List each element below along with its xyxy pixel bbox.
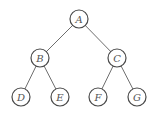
binary-tree-diagram: A B C D E F G bbox=[0, 0, 160, 116]
node-label: E bbox=[55, 92, 64, 103]
node-d: D bbox=[12, 88, 30, 106]
node-label: D bbox=[16, 92, 25, 103]
node-label: B bbox=[35, 53, 43, 64]
node-b: B bbox=[31, 49, 49, 67]
node-c: C bbox=[108, 49, 126, 67]
node-label: A bbox=[74, 14, 82, 25]
node-e: E bbox=[51, 88, 69, 106]
node-label: G bbox=[133, 92, 141, 103]
node-label: C bbox=[113, 53, 121, 64]
node-label: F bbox=[94, 92, 103, 103]
node-g: G bbox=[128, 88, 146, 106]
node-f: F bbox=[89, 88, 107, 106]
node-a: A bbox=[70, 10, 88, 28]
